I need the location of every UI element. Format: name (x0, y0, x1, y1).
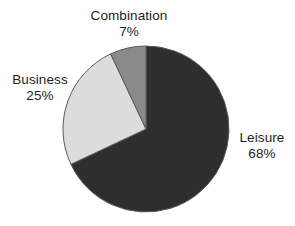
slice-label-combination: Combination 7% (86, 8, 172, 39)
slice-label-leisure-name: Leisure (232, 130, 292, 146)
slice-label-business-name: Business (6, 72, 74, 88)
pie-slices-group (63, 46, 229, 212)
slice-label-combination-value: 7% (86, 24, 172, 40)
slice-label-business: Business 25% (6, 72, 74, 103)
slice-label-combination-name: Combination (86, 8, 172, 24)
slice-label-business-value: 25% (6, 88, 74, 104)
pie-chart-figure: Combination 7% Business 25% Leisure 68% (0, 0, 295, 226)
slice-label-leisure-value: 68% (232, 146, 292, 162)
slice-label-leisure: Leisure 68% (232, 130, 292, 161)
